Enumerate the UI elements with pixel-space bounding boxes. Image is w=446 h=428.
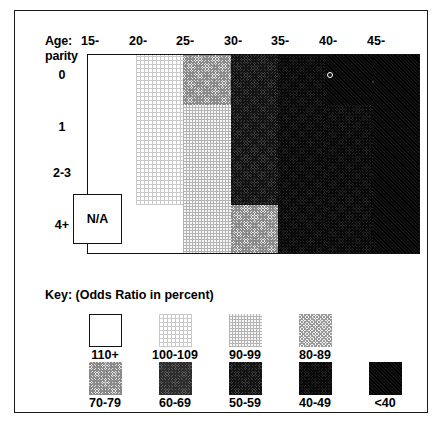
row-header-parity-0: 0 <box>45 69 79 82</box>
key-item-80-89: 80-89 <box>279 314 351 362</box>
key-swatch-50-59 <box>229 362 262 395</box>
col-header-40: 40- <box>319 35 337 48</box>
cell-parity-1-age-40 <box>326 105 373 254</box>
key-swatch-60-69 <box>159 362 192 395</box>
parity-axis-label: parity <box>45 50 78 63</box>
key-label-100-109: 100-109 <box>139 348 211 362</box>
key-title: Key: (Odds Ratio in percent) <box>45 288 214 302</box>
col-header-25: 25- <box>176 35 194 48</box>
cell-parity-0-age-20 <box>136 55 183 205</box>
cell-parity-all-age-45 <box>373 55 420 254</box>
cell-parity-all-age-35 <box>278 55 326 254</box>
figure-frame: Age: parity 15- 20- 25- 30- 35- 40- 45- … <box>14 10 428 413</box>
scan-speck-icon <box>327 72 333 78</box>
key-swatch-90-99 <box>229 314 262 347</box>
col-header-20: 20- <box>129 35 147 48</box>
col-header-15: 15- <box>81 35 99 48</box>
na-cell: N/A <box>73 194 122 244</box>
key-label-110plus: 110+ <box>69 348 141 362</box>
col-header-45: 45- <box>367 35 385 48</box>
key-item-60-69: 60-69 <box>139 362 211 410</box>
col-header-35: 35- <box>271 35 289 48</box>
col-header-30: 30- <box>224 35 242 48</box>
key-item-90-99: 90-99 <box>209 314 281 362</box>
key-item-70-79: 70-79 <box>69 362 141 410</box>
cell-parity-4-age-30 <box>231 205 278 254</box>
na-label: N/A <box>87 212 109 226</box>
key-swatch-70-79 <box>89 362 122 395</box>
cell-parity-4-age-20 <box>136 205 183 254</box>
key-swatch-110plus <box>89 314 122 347</box>
key-row-top: 110+ 100-109 90-99 80-89 <box>15 314 446 366</box>
row-header-parity-1: 1 <box>45 121 79 134</box>
key-label-80-89: 80-89 <box>279 348 351 362</box>
row-header-parity-2-3: 2-3 <box>45 167 79 180</box>
cell-parity-0-age-40 <box>326 55 373 105</box>
key-label-60-69: 60-69 <box>139 396 211 410</box>
key-item-40-49: 40-49 <box>279 362 351 410</box>
key-item-100-109: 100-109 <box>139 314 211 362</box>
key-row-bottom: 70-79 60-69 50-59 40-49 <40 <box>15 362 446 414</box>
age-axis-label: Age: <box>45 35 78 48</box>
key-swatch-100-109 <box>159 314 192 347</box>
key-swatch-lt40 <box>369 362 402 395</box>
key-item-110plus: 110+ <box>69 314 141 362</box>
key-label-70-79: 70-79 <box>69 396 141 410</box>
scan-speck-icon <box>372 81 374 83</box>
key-item-50-59: 50-59 <box>209 362 281 410</box>
cell-parity-0-age-30 <box>231 55 278 205</box>
axis-corner-label: Age: parity <box>45 35 78 62</box>
key-label-40-49: 40-49 <box>279 396 351 410</box>
cell-parity-1-age-25 <box>183 105 231 254</box>
key-swatch-80-89 <box>299 314 332 347</box>
key-label-lt40: <40 <box>349 396 421 410</box>
key-label-90-99: 90-99 <box>209 348 281 362</box>
key-item-lt40: <40 <box>349 362 421 410</box>
cell-parity-0-age-25 <box>183 55 231 105</box>
key-swatch-40-49 <box>299 362 332 395</box>
heatmap-matrix <box>87 54 420 254</box>
key-label-50-59: 50-59 <box>209 396 281 410</box>
